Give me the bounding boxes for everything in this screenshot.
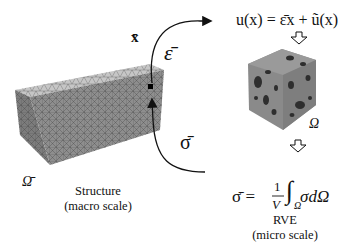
macro-domain-label: Ω̄ <box>22 175 32 189</box>
macro-caption-subtitle: (macro scale) <box>48 200 148 213</box>
stress-eq-denominator: V <box>272 198 280 211</box>
macro-structure-mesh <box>15 64 164 165</box>
macro-position-label: x̄ <box>131 30 139 45</box>
down-arrow-icon <box>290 140 306 152</box>
material-point-marker <box>148 84 153 89</box>
stress-eq-numerator: 1 <box>274 180 281 193</box>
rve-domain-label: Ω <box>309 117 319 131</box>
stress-label: σ̄ <box>180 132 191 152</box>
stress-eq-lhs: σ̄ = <box>232 188 255 205</box>
integral-sign: ∫ <box>286 178 293 204</box>
rve-caption-title: RVE <box>250 214 320 227</box>
displacement-equation: u(x) = ε̄x + ũ(x) <box>236 12 338 28</box>
down-arrow-icon <box>291 32 307 44</box>
rve-caption-subtitle: (micro scale) <box>240 229 330 242</box>
stress-eq-integrand: σdΩ <box>300 188 329 205</box>
rve-cube <box>248 49 316 130</box>
strain-label: ε̄ <box>164 42 173 64</box>
macro-caption-title: Structure <box>48 185 148 198</box>
